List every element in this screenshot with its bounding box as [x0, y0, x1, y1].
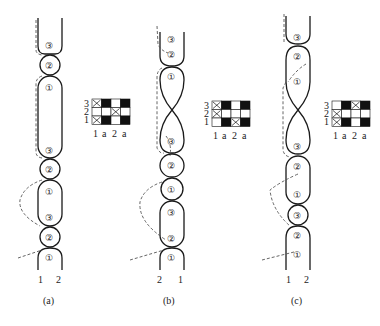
- segment-number: ①: [45, 253, 53, 263]
- grid-cell-empty: [111, 116, 121, 125]
- grid-cell-empty: [231, 110, 241, 119]
- col-label: 1: [93, 128, 98, 139]
- grid-a: 3 2 1 1 a 2 a: [84, 98, 130, 139]
- strand-label: 1: [286, 274, 291, 285]
- col-label: a: [362, 130, 367, 141]
- segment-number: ①: [167, 253, 175, 263]
- panel-a: ③ ② ① ③ ② ① ③ ② ① 1 2 (a): [18, 18, 62, 307]
- col-label: a: [102, 128, 107, 139]
- segment-number: ①: [167, 72, 175, 82]
- row-label: 1: [204, 116, 209, 127]
- grid-cell-filled: [361, 118, 371, 127]
- grid-cell-empty: [332, 101, 342, 110]
- segment-number: ②: [293, 231, 301, 241]
- grid-cell-filled: [241, 118, 251, 127]
- row-label: 1: [84, 114, 89, 125]
- segment-number: ②: [293, 162, 301, 172]
- grid-cell-empty: [351, 118, 361, 127]
- segment-number: ②: [45, 233, 53, 243]
- segment-number: ②: [167, 50, 175, 60]
- segment-number: ③: [167, 208, 175, 218]
- col-label: a: [342, 130, 347, 141]
- grid-cell-empty: [342, 110, 352, 119]
- twisted-loop: [286, 46, 310, 154]
- grid-cell-filled: [222, 118, 232, 127]
- col-label: a: [122, 128, 127, 139]
- segment-number: ③: [45, 146, 53, 156]
- grid-cell-filled: [342, 101, 352, 110]
- dashed-guide: [140, 182, 166, 240]
- grid-cell-filled: [342, 118, 352, 127]
- panel-caption: (c): [291, 295, 302, 307]
- segment-number: ②: [45, 61, 53, 71]
- strand-label: 2: [56, 274, 61, 285]
- grid-cell-empty: [351, 110, 361, 119]
- segment-number: ③: [45, 41, 53, 51]
- panel-b: ③ ② ① ③ ② ① ③ ② ① 2 1 (b): [130, 26, 184, 307]
- dashed-guide: [130, 250, 164, 260]
- col-label: 2: [112, 128, 117, 139]
- segment-number: ①: [293, 250, 301, 260]
- grid-cell-empty: [111, 99, 121, 108]
- grid-cell-filled: [222, 101, 232, 110]
- segment-number: ③: [167, 35, 175, 45]
- grid-c: 3 2 1 1 a 2 a: [324, 100, 370, 141]
- segment-number: ②: [293, 52, 301, 62]
- segment-number: ③: [45, 213, 53, 223]
- segment-number: ③: [167, 137, 175, 147]
- segment-number: ③: [293, 211, 301, 221]
- dashed-guide: [262, 252, 294, 260]
- col-label: 2: [352, 130, 357, 141]
- col-label: 1: [333, 130, 338, 141]
- segment-number: ②: [45, 165, 53, 175]
- grid-cell-empty: [222, 110, 232, 119]
- grid-cell-empty: [102, 108, 112, 117]
- strand-label: 1: [38, 274, 43, 285]
- dashed-guide: [36, 76, 42, 158]
- col-label: 2: [232, 130, 237, 141]
- segment-number: ③: [293, 142, 301, 152]
- grid-cell-empty: [231, 101, 241, 110]
- segment-number: ③: [293, 33, 301, 43]
- strand-label: 1: [178, 274, 183, 285]
- grid-cell-filled: [102, 99, 112, 108]
- segment-number: ②: [167, 234, 175, 244]
- grid-b: 3 2 1 1 a 2 a: [204, 100, 250, 141]
- segment-number: ①: [293, 77, 301, 87]
- grid-cell-filled: [102, 116, 112, 125]
- grid-cell-filled: [241, 101, 251, 110]
- strand-label: 2: [157, 274, 162, 285]
- grid-cell-empty: [361, 110, 371, 119]
- grid-cell-empty: [241, 110, 251, 119]
- panel-c: ③ ② ① ③ ② ① ③ ② ① 1 2 (c): [262, 14, 310, 307]
- grid-cell-filled: [121, 99, 131, 108]
- col-label: a: [222, 130, 227, 141]
- segment-number: ①: [45, 83, 53, 93]
- panel-caption: (b): [163, 295, 175, 307]
- segment-number: ①: [45, 187, 53, 197]
- panel-caption: (a): [43, 295, 54, 307]
- braid-diagram: ③ ② ① ③ ② ① ③ ② ① 1 2 (a) 3 2 1 1 a: [0, 0, 380, 326]
- segment-number: ②: [167, 161, 175, 171]
- grid-cell-filled: [121, 116, 131, 125]
- row-label: 1: [324, 116, 329, 127]
- col-label: a: [242, 130, 247, 141]
- grid-cell-empty: [92, 108, 102, 117]
- grid-cell-empty: [121, 108, 131, 117]
- segment-number: ①: [167, 185, 175, 195]
- strand-label: 2: [304, 274, 309, 285]
- col-label: 1: [213, 130, 218, 141]
- grid-cell-filled: [361, 101, 371, 110]
- segment-number: ①: [293, 190, 301, 200]
- grid-cell-empty: [212, 118, 222, 127]
